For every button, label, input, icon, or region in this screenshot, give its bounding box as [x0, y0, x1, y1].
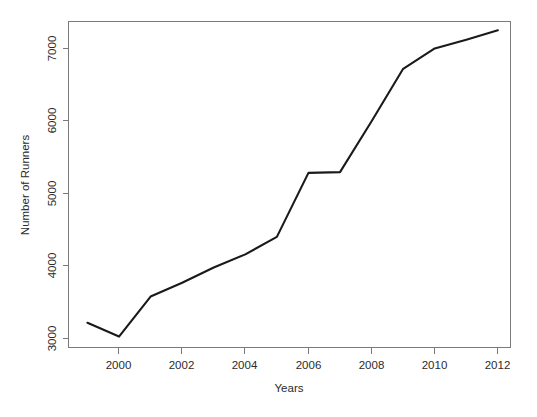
- x-tick-label-2002: 2002: [169, 359, 195, 371]
- y-tick-label-4000: 4000: [46, 253, 58, 279]
- data-series-line: [87, 30, 497, 336]
- x-tick-label-2008: 2008: [359, 359, 385, 371]
- y-tick-label-7000: 7000: [46, 36, 58, 62]
- x-tick-label-2010: 2010: [422, 359, 448, 371]
- x-tick-label-2000: 2000: [106, 359, 132, 371]
- x-tick-label-2012: 2012: [485, 359, 511, 371]
- chart-screenshot: 7000 6000 5000 4000 3000 2000 2002 2004 …: [0, 0, 537, 417]
- x-axis-tick-labels: 2000 2002 2004 2006 2008 2010 2012: [106, 359, 511, 371]
- line-chart: 7000 6000 5000 4000 3000 2000 2002 2004 …: [0, 0, 537, 417]
- x-axis-title: Years: [275, 382, 304, 394]
- y-axis-tick-labels: 7000 6000 5000 4000 3000: [46, 36, 58, 352]
- y-axis-ticks: [63, 49, 69, 339]
- y-tick-label-5000: 5000: [46, 181, 58, 207]
- y-axis-title: Number of Runners: [19, 135, 31, 236]
- x-tick-label-2006: 2006: [296, 359, 322, 371]
- y-tick-label-6000: 6000: [46, 108, 58, 134]
- x-tick-label-2004: 2004: [232, 359, 258, 371]
- y-tick-label-3000: 3000: [46, 326, 58, 352]
- plot-frame: [69, 22, 511, 348]
- x-axis-ticks: [119, 348, 498, 354]
